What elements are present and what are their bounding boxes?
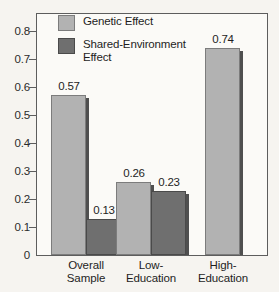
y-axis-label-0.4: 0.4: [4, 137, 30, 149]
bar-value-high-genetic: 0.74: [197, 33, 249, 45]
legend-label-genetic-effect-line1: Genetic Effect: [83, 15, 186, 28]
legend-label-shared-environment-effect-line2: Effect: [83, 51, 186, 64]
bar-low-genetic[interactable]: [116, 182, 151, 255]
y-tick-0.3: [29, 171, 36, 172]
y-axis-label-0: 0: [4, 249, 30, 261]
y-tick-0.4: [29, 143, 36, 144]
x-axis-label-low-education-line1: Low-: [111, 259, 191, 272]
y-tick-0.5: [29, 115, 36, 116]
y-axis-label-0.7: 0.7: [4, 53, 30, 65]
bar-value-low-shared: 0.23: [143, 176, 195, 188]
bar-high-genetic[interactable]: [205, 48, 240, 255]
legend-label-shared-environment-effect-line1: Shared-Environment: [83, 38, 186, 51]
legend-item-genetic-effect[interactable]: Genetic Effect: [58, 14, 186, 31]
y-axis-label-0.8: 0.8: [4, 25, 30, 37]
x-axis-label-high-education-line1: High-: [183, 259, 263, 272]
bar-chart: 0.8 0.7 0.6 0.5 0.4 0.3 0.2 0.1 0 0.57 0…: [0, 0, 279, 292]
y-tick-0.2: [29, 199, 36, 200]
bar-overall-genetic[interactable]: [51, 95, 86, 255]
y-axis: 0.8 0.7 0.6 0.5 0.4 0.3 0.2 0.1 0: [0, 0, 30, 292]
legend-label-genetic-effect: Genetic Effect: [83, 14, 186, 28]
y-tick-0.6: [29, 87, 36, 88]
y-axis-label-0.3: 0.3: [4, 165, 30, 177]
legend-swatch-shared-environment-effect: [58, 38, 75, 54]
y-axis-label-0.2: 0.2: [4, 193, 30, 205]
legend-item-shared-environment-effect[interactable]: Shared-Environment Effect: [58, 37, 186, 63]
y-tick-0.7: [29, 59, 36, 60]
bar-low-shared[interactable]: [151, 191, 186, 255]
legend: Genetic Effect Shared-Environment Effect: [58, 14, 186, 69]
y-axis-label-0.6: 0.6: [4, 81, 30, 93]
bar-shadow-high-genetic: [240, 51, 243, 255]
x-axis-label-high-education: High- Education: [183, 259, 263, 284]
legend-swatch-genetic-effect: [58, 15, 75, 31]
x-axis-label-high-education-line2: Education: [183, 272, 263, 285]
x-axis-label-low-education-line2: Education: [111, 272, 191, 285]
y-axis-label-0.5: 0.5: [4, 109, 30, 121]
x-axis-label-low-education: Low- Education: [111, 259, 191, 284]
bar-value-overall-genetic: 0.57: [43, 80, 95, 92]
y-tick-0.1: [29, 227, 36, 228]
y-tick-0.8: [29, 31, 36, 32]
y-axis-label-0.1: 0.1: [4, 221, 30, 233]
bar-shadow-low-shared: [186, 194, 189, 255]
legend-label-shared-environment-effect: Shared-Environment Effect: [83, 37, 186, 63]
